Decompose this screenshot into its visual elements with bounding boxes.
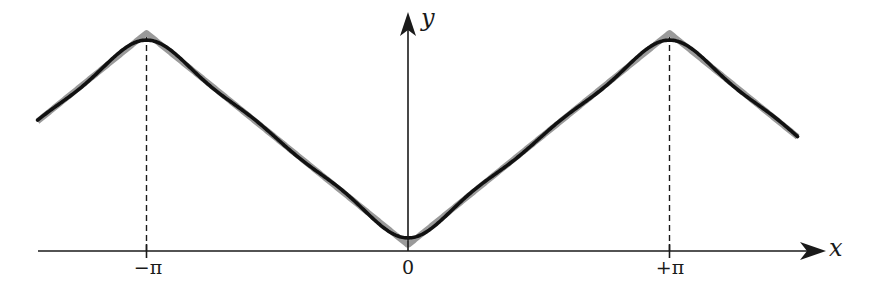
tick-label-plus-pi: +π bbox=[656, 256, 684, 278]
target-triangle-wave bbox=[38, 33, 798, 245]
y-axis-label: y bbox=[421, 4, 435, 32]
x-axis-label: x bbox=[829, 234, 843, 262]
tick-label-minus-pi: −π bbox=[134, 256, 162, 278]
fourier-partial-sum-curve bbox=[38, 40, 798, 238]
fourier-plot bbox=[0, 0, 882, 293]
tick-label-zero: 0 bbox=[402, 256, 414, 278]
